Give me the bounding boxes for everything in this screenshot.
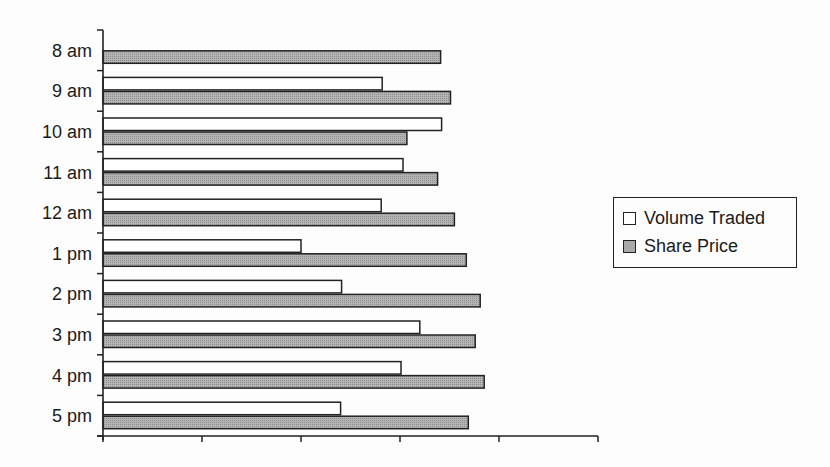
- legend-label: Volume Traded: [644, 208, 765, 229]
- bar-share-price: [103, 416, 468, 429]
- y-tick-label: 8 am: [52, 41, 92, 61]
- bar-volume-traded: [103, 118, 442, 131]
- bar-share-price: [103, 173, 438, 186]
- y-tick-label: 10 am: [42, 122, 92, 142]
- legend-item-share-price: Share Price: [623, 236, 738, 257]
- bar-volume-traded: [103, 199, 381, 212]
- bar-volume-traded: [103, 240, 301, 253]
- bar-volume-traded: [103, 321, 420, 334]
- bar-share-price: [103, 132, 407, 145]
- bar-volume-traded: [103, 77, 382, 90]
- y-tick-label: 12 am: [42, 203, 92, 223]
- x-axis: [97, 436, 598, 442]
- bar-share-price: [103, 51, 441, 64]
- bar-share-price: [103, 376, 484, 389]
- legend-item-volume-traded: Volume Traded: [623, 208, 765, 229]
- bars-group: [103, 51, 484, 429]
- bar-share-price: [103, 213, 454, 226]
- y-tick-label: 9 am: [52, 81, 92, 101]
- y-tick-label: 5 pm: [52, 406, 92, 426]
- y-axis-labels: 8 am9 am10 am11 am12 am1 pm2 pm3 pm4 pm5…: [42, 41, 92, 426]
- bar-volume-traded: [103, 402, 341, 415]
- bar-volume-traded: [103, 280, 342, 293]
- bar-share-price: [103, 254, 466, 266]
- bar-share-price: [103, 294, 480, 307]
- y-axis: [97, 30, 103, 440]
- bar-share-price: [103, 335, 475, 348]
- legend-swatch-share-icon: [623, 240, 636, 253]
- y-tick-label: 2 pm: [52, 284, 92, 304]
- legend-label: Share Price: [644, 236, 738, 257]
- y-tick-label: 11 am: [43, 163, 92, 183]
- y-tick-label: 1 pm: [52, 244, 92, 264]
- y-tick-label: 4 pm: [52, 366, 92, 386]
- bar-volume-traded: [103, 159, 403, 172]
- y-tick-label: 3 pm: [52, 325, 92, 345]
- legend: Volume Traded Share Price: [613, 197, 797, 268]
- bar-volume-traded: [103, 362, 401, 375]
- legend-swatch-volume-icon: [623, 212, 636, 225]
- bar-share-price: [103, 91, 451, 104]
